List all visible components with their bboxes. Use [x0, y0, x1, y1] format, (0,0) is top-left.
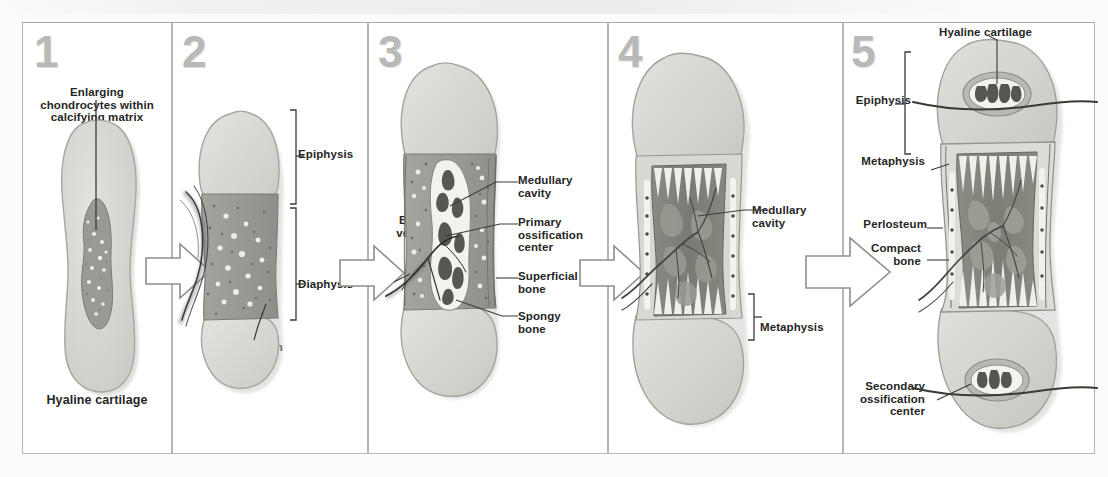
panel-4-diagram	[620, 48, 780, 448]
panel-5-number: 5	[851, 30, 874, 74]
panel-5-label-compact-bone: Compact bone	[841, 242, 921, 267]
panel-1-diagram	[44, 118, 154, 398]
panel-2-number: 2	[182, 30, 205, 74]
label-line: center	[841, 405, 925, 418]
panel-5-label-metaphysis: Metaphysis	[841, 155, 925, 168]
panel-5[interactable]: 5 Hyaline cartilage Epiphysis Metaphysis…	[841, 22, 1095, 454]
diaphysis-bracket	[290, 208, 304, 320]
label-line: chondrocytes within	[24, 99, 170, 112]
panel-3-diagram	[384, 60, 534, 430]
distal-epiphysis	[633, 313, 744, 424]
label-line: Enlarging	[24, 86, 170, 99]
epiphysis-bracket	[290, 110, 304, 204]
distal-epiphysis	[202, 312, 279, 388]
panel-1-number: 1	[34, 30, 57, 74]
label-line: bone	[841, 255, 921, 268]
periosteal-smudge	[180, 192, 204, 324]
label-line: ossification	[841, 393, 925, 406]
panel-5-diagram	[927, 32, 1107, 452]
panel-2[interactable]: 2 Epiphysis Diaphysis Bone formation	[170, 22, 366, 454]
panel-5-label-periosteum: Perlosteum	[841, 218, 927, 231]
metaphysis-bracket	[748, 294, 762, 340]
diaphysis-shaft	[202, 194, 278, 320]
endochondral-ossification-figure: 1 Enlarging chondrocytes within calcifyi…	[0, 0, 1108, 477]
panel-5-label-secondary-ossification-center: Secondary ossification center	[841, 380, 925, 418]
panel-3[interactable]: 3 Blood vessel Medullary cavity Primary …	[366, 22, 606, 454]
label-line: Compact	[841, 242, 921, 255]
distal-epiphysis	[401, 302, 497, 397]
label-line: Secondary	[841, 380, 925, 393]
